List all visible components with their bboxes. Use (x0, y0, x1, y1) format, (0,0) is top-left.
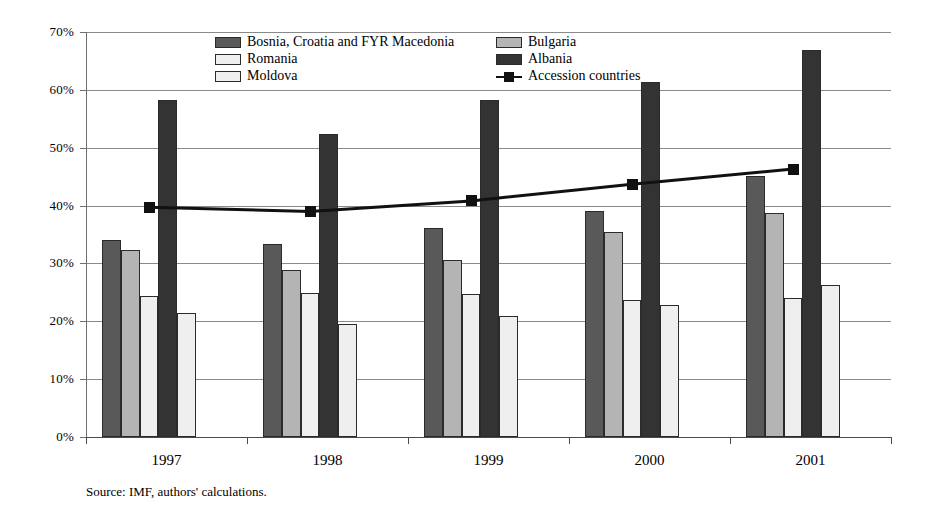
line-marker (788, 164, 799, 175)
line-marker (305, 206, 316, 217)
legend-item-label: Romania (247, 51, 298, 67)
y-axis-tick-label: 40% (32, 199, 74, 212)
x-axis-tick (730, 437, 731, 444)
bar (765, 213, 784, 437)
legend-swatch-icon (496, 54, 522, 65)
legend-item: Albania (496, 51, 676, 67)
bar (121, 250, 140, 437)
bar (499, 316, 518, 437)
legend-swatch-icon (215, 71, 241, 82)
bar (480, 100, 499, 437)
bar (102, 240, 121, 437)
legend-column-right: BulgariaAlbaniaAccession countries (496, 34, 676, 85)
bar (802, 50, 821, 437)
legend-item-label: Accession countries (528, 68, 640, 84)
legend-item-label: Albania (528, 51, 572, 67)
bar (821, 285, 840, 437)
x-axis-tick (891, 437, 892, 444)
y-axis-tick-label: 70% (32, 25, 74, 38)
source-note: Source: IMF, authors' calculations. (86, 484, 267, 500)
y-axis-tick-label: 0% (32, 430, 74, 443)
y-axis (86, 32, 87, 438)
bar (301, 293, 320, 437)
legend-item: Romania (215, 51, 490, 67)
y-axis-tick-label: 60% (32, 83, 74, 96)
legend-item: Moldova (215, 68, 490, 84)
bar-group (569, 32, 730, 437)
plot-area (86, 32, 891, 437)
bar (282, 270, 301, 437)
x-axis-tick-label: 2000 (590, 452, 710, 469)
line-marker (627, 179, 638, 190)
bar-group (247, 32, 408, 437)
legend-item-label: Bulgaria (528, 34, 576, 50)
legend-swatch-icon (215, 54, 241, 65)
y-axis-tick-label: 10% (32, 372, 74, 385)
legend-item: Bosnia, Croatia and FYR Macedonia (215, 34, 490, 50)
legend-item-label: Moldova (247, 68, 298, 84)
bar (784, 298, 803, 437)
bar (604, 232, 623, 437)
legend-column-left: Bosnia, Croatia and FYR MacedoniaRomania… (215, 34, 490, 85)
x-axis-tick-label: 1999 (429, 452, 549, 469)
x-axis-tick (86, 437, 87, 444)
bar (660, 305, 679, 437)
x-axis-tick (569, 437, 570, 444)
line-marker (144, 202, 155, 213)
bar (443, 260, 462, 437)
bar (319, 134, 338, 437)
bar (623, 300, 642, 437)
bar (338, 324, 357, 437)
bar (746, 176, 765, 437)
legend-item: Accession countries (496, 68, 676, 84)
y-axis-tick-label: 50% (32, 141, 74, 154)
x-axis-tick-label: 1997 (107, 452, 227, 469)
bar (263, 244, 282, 437)
bar (140, 296, 159, 437)
legend-item-label: Bosnia, Croatia and FYR Macedonia (247, 34, 454, 50)
bar (424, 228, 443, 437)
x-axis-tick-label: 1998 (268, 452, 388, 469)
x-axis-tick (408, 437, 409, 444)
bar (462, 294, 481, 437)
y-axis-tick-label: 30% (32, 256, 74, 269)
legend-swatch-icon (496, 37, 522, 48)
x-axis-tick (247, 437, 248, 444)
bar (177, 313, 196, 437)
legend-line-marker-icon (496, 71, 522, 82)
x-axis (86, 437, 892, 438)
bar-group (408, 32, 569, 437)
chart-figure: 0%10%20%30%40%50%60%70% 1997199819992000… (0, 0, 931, 524)
bar (158, 100, 177, 437)
legend-swatch-icon (215, 37, 241, 48)
x-axis-tick-label: 2001 (751, 452, 871, 469)
bar-group (86, 32, 247, 437)
legend-item: Bulgaria (496, 34, 676, 50)
line-marker (466, 195, 477, 206)
bar (585, 211, 604, 437)
bar (641, 82, 660, 437)
y-axis-tick-label: 20% (32, 314, 74, 327)
bar-group (730, 32, 891, 437)
